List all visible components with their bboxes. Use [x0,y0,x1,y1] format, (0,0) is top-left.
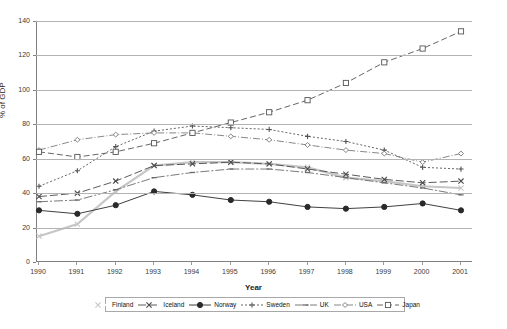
diamond-marker [342,302,347,307]
gridline [36,124,472,125]
square-marker [305,98,310,103]
plus-marker [36,184,41,189]
y-tick-mark [33,262,36,263]
legend-item-norway[interactable]: Norway [188,300,240,310]
gridline [36,21,472,22]
x-tick-label: 1994 [177,268,205,276]
legend-swatch-norway [188,300,212,310]
legend-label: USA [359,301,372,308]
y-tick-mark [33,124,36,125]
x-tick-mark [115,262,116,265]
x-tick-mark [460,262,461,265]
x-tick-label: 1999 [369,268,397,276]
plus-marker [228,125,233,130]
y-tick-mark [33,228,36,229]
legend-label: Japan [402,301,420,308]
circle-marker [420,201,425,206]
legend-swatch-finland [86,300,110,310]
gridline [36,55,472,56]
legend-swatch-iceland [137,300,161,310]
x-tick-label: 1993 [139,268,167,276]
legend-item-japan[interactable]: Japan [376,300,424,310]
gridline [36,228,472,229]
plus-marker [343,139,348,144]
x-tick-label: 1997 [293,268,321,276]
x-tick-label: 1990 [24,268,52,276]
chart-legend: FinlandIcelandNorwaySwedenUKUSAJapan [105,297,405,312]
legend-item-uk[interactable]: UK [294,300,333,310]
y-tick-label: 40 [0,189,30,196]
y-tick-mark [33,21,36,22]
diamond-marker [343,148,348,153]
line-chart: % of GDP 020406080100120140 199019911992… [0,0,507,329]
y-tick-label: 80 [0,120,30,127]
plus-marker [75,168,80,173]
x-tick-mark [191,262,192,265]
diamond-marker [75,137,80,142]
diamond-marker [267,137,272,142]
plus-marker [113,144,118,149]
gridline [36,193,472,194]
x-marker [458,178,463,183]
y-tick-label: 100 [0,86,30,93]
gridline [36,159,472,160]
legend-label: Finland [112,301,133,308]
series-line [39,162,461,196]
circle-marker [75,211,80,216]
square-marker [151,141,156,146]
y-tick-label: 60 [0,155,30,162]
y-tick-label: 0 [0,258,30,265]
square-marker [190,130,195,135]
x-tick-mark [307,262,308,265]
plus-marker [267,127,272,132]
legend-item-sweden[interactable]: Sweden [240,300,294,310]
legend-label: Iceland [163,301,184,308]
plot-area [36,21,472,262]
x-tick-mark [422,262,423,265]
x-tick-label: 1991 [62,268,90,276]
series-sweden [36,123,463,188]
circle-marker [343,206,348,211]
circle-marker [305,204,310,209]
legend-swatch-sweden [240,300,264,310]
x-axis-title: Year [0,283,507,292]
series-japan [36,29,463,160]
y-tick-label: 120 [0,51,30,58]
y-tick-mark [33,193,36,194]
x-tick-label: 1995 [216,268,244,276]
x-tick-mark [230,262,231,265]
x-tick-mark [345,262,346,265]
circle-marker [113,203,118,208]
plus-marker [250,302,255,307]
square-marker [36,149,41,154]
x-tick-mark [153,262,154,265]
x-tick-mark [383,262,384,265]
legend-swatch-japan [376,300,400,310]
circle-marker [382,204,387,209]
square-marker [382,60,387,65]
y-tick-mark [33,90,36,91]
legend-label: UK [320,301,329,308]
y-tick-mark [33,159,36,160]
circle-marker [228,197,233,202]
diamond-marker [228,134,233,139]
x-marker [113,178,118,183]
diamond-marker [420,160,425,165]
plus-marker [420,165,425,170]
circle-marker [267,199,272,204]
legend-swatch-uk [294,300,318,310]
gridline [36,90,472,91]
x-tick-mark [76,262,77,265]
legend-item-usa[interactable]: USA [333,300,376,310]
diamond-marker [458,151,463,156]
x-tick-label: 1996 [254,268,282,276]
legend-item-finland[interactable]: Finland [86,300,137,310]
plus-marker [305,134,310,139]
square-marker [420,46,425,51]
square-marker [267,110,272,115]
legend-item-iceland[interactable]: Iceland [137,300,188,310]
legend-swatch-usa [333,300,357,310]
series-uk [36,169,463,202]
legend-label: Sweden [266,301,290,308]
square-marker [458,29,463,34]
